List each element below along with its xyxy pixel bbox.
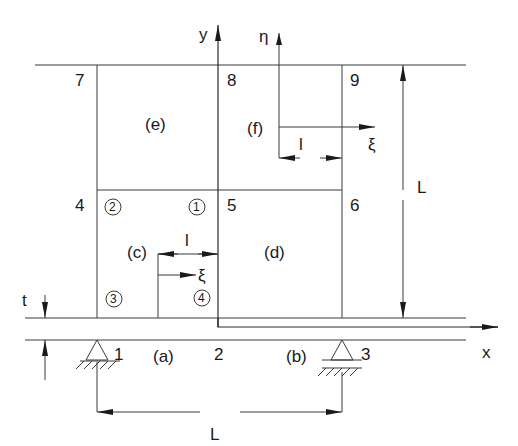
pin-support-icon bbox=[86, 340, 108, 360]
finite-element-diagram: y x η ξ l l ξ L L t bbox=[0, 0, 518, 446]
local-node-4-label: 4 bbox=[198, 291, 205, 305]
dimension-thickness: t bbox=[22, 291, 45, 380]
node-5-label: 5 bbox=[227, 196, 236, 215]
eta-label: η bbox=[259, 27, 268, 46]
xi-label-c: ξ bbox=[198, 266, 206, 285]
local-node-2-label: 2 bbox=[109, 200, 116, 214]
element-a-label: (a) bbox=[153, 347, 174, 366]
node-4-label: 4 bbox=[75, 196, 84, 215]
dimension-vertical-L: L bbox=[403, 65, 426, 318]
ground-hatch-icon bbox=[318, 368, 358, 376]
global-axes: y x bbox=[199, 25, 498, 362]
node-8-label: 8 bbox=[227, 71, 236, 90]
element-b-label: (b) bbox=[286, 347, 307, 366]
node-2-label: 2 bbox=[214, 345, 223, 364]
dim-l-c-label: l bbox=[185, 231, 189, 250]
node-7-label: 7 bbox=[75, 71, 84, 90]
node-9-label: 9 bbox=[350, 71, 359, 90]
element-labels: (a) (b) (c) (d) (e) (f) bbox=[127, 115, 307, 366]
x-axis-line bbox=[218, 318, 498, 327]
dim-horizontal-label: L bbox=[210, 425, 219, 444]
node-6-label: 6 bbox=[350, 196, 359, 215]
y-axis-label: y bbox=[199, 25, 208, 44]
node-3-label: 3 bbox=[361, 345, 370, 364]
c-local-frame bbox=[158, 254, 218, 318]
local-node-3-label: 3 bbox=[110, 292, 117, 306]
local-axes-f: η ξ l bbox=[259, 27, 376, 158]
dim-l-f-label: l bbox=[299, 135, 303, 154]
local-node-1-label: 1 bbox=[193, 200, 200, 214]
local-axes-c: l ξ bbox=[158, 231, 218, 318]
support-node-3 bbox=[318, 340, 362, 376]
thickness-label: t bbox=[22, 291, 27, 310]
node-1-label: 1 bbox=[114, 345, 123, 364]
element-d-label: (d) bbox=[264, 243, 285, 262]
xi-label-f: ξ bbox=[368, 135, 376, 154]
ground-hatch-icon bbox=[76, 361, 116, 369]
pin-support-icon bbox=[331, 340, 353, 360]
dim-vertical-label: L bbox=[417, 178, 426, 197]
element-e-label: (e) bbox=[145, 115, 166, 134]
node-labels: 1 2 3 4 5 6 7 8 9 bbox=[75, 71, 370, 364]
element-f-label: (f) bbox=[247, 119, 263, 138]
x-axis-label: x bbox=[482, 343, 491, 362]
dimension-horizontal-L: L bbox=[97, 362, 342, 444]
mesh-lines bbox=[25, 65, 466, 340]
element-c-label: (c) bbox=[127, 243, 147, 262]
